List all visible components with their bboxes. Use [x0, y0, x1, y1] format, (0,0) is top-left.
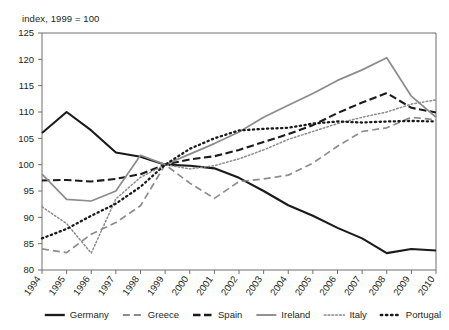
series-layer — [42, 58, 436, 253]
legend-label: Germany — [70, 309, 109, 320]
series-line-spain — [42, 93, 436, 181]
legend-item-ireland[interactable]: Ireland — [256, 309, 310, 320]
x-axis-tick-label: 1997 — [95, 274, 116, 298]
legend-item-greece[interactable]: Greece — [123, 309, 179, 320]
y-axis-tick-label: 115 — [19, 80, 34, 91]
y-axis-tick-label: 80 — [23, 264, 34, 275]
x-axis-tick-label: 2010 — [416, 274, 437, 298]
legend-label: Portugal — [406, 309, 441, 320]
y-axis-tick-label: 125 — [18, 27, 34, 38]
legend-item-portugal[interactable]: Portugal — [381, 309, 441, 320]
y-axis-tick-label: 110 — [19, 106, 34, 117]
line-chart-plot: 80859095100105110115120125 1994199519961… — [0, 0, 449, 330]
y-axis-tick-label: 85 — [23, 238, 34, 249]
y-axis-tick-label: 90 — [23, 212, 34, 223]
y-axis-tick-label: 120 — [18, 54, 34, 65]
chart-container: index, 1999 = 100 8085909510010511011512… — [0, 0, 449, 330]
legend-item-italy[interactable]: Italy — [324, 309, 367, 320]
legend-label: Italy — [349, 309, 367, 320]
y-axis-tick-label: 95 — [23, 185, 34, 196]
chart-legend: GermanyGreeceSpainIrelandItalyPortugal — [45, 309, 441, 320]
x-axis-tick-label: 1999 — [145, 274, 166, 298]
series-line-italy — [42, 100, 436, 253]
legend-item-germany[interactable]: Germany — [45, 309, 109, 320]
x-axis-tick-label: 1995 — [46, 274, 67, 298]
x-axis-tick-label: 2004 — [268, 274, 289, 298]
y-axis-tick-label: 105 — [18, 133, 34, 144]
legend-label: Greece — [148, 309, 179, 320]
legend-item-spain[interactable]: Spain — [193, 309, 242, 320]
legend-label: Ireland — [281, 309, 310, 320]
legend-label: Spain — [218, 309, 242, 320]
x-axis-tick-label: 2005 — [292, 274, 313, 298]
x-axis-tick-label: 2002 — [219, 274, 240, 298]
x-axis-tick-label: 1996 — [71, 274, 92, 298]
x-axis-tick-labels: 1994199519961997199819992000200120022003… — [22, 274, 437, 298]
x-axis-tick-label: 1994 — [22, 274, 43, 298]
x-axis-tick-label: 2009 — [391, 274, 412, 298]
x-axis-tick-label: 2000 — [169, 274, 190, 298]
x-axis-tick-label: 2007 — [342, 274, 363, 298]
x-axis-tick-label: 2006 — [317, 274, 338, 298]
x-axis-tick-label: 2008 — [366, 274, 387, 298]
x-axis-tick-label: 2003 — [243, 274, 264, 298]
x-axis-tick-label: 2001 — [194, 274, 215, 298]
x-axis-tick-label: 1998 — [120, 274, 141, 298]
y-axis-tick-label: 100 — [18, 159, 34, 170]
